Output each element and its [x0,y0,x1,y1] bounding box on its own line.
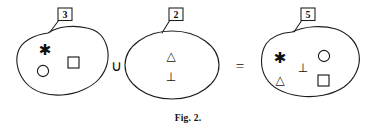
left-set-leader-line [50,20,59,32]
left-set-group: 3 ✱ [17,8,108,95]
circle-icon [318,50,329,61]
uptack-icon: ⊥ [166,70,176,84]
square-icon [68,57,79,68]
asterisk-icon: ✱ [274,49,287,67]
middle-set-label: 2 [174,9,179,20]
square-icon [318,75,329,86]
middle-set-outline [125,31,219,99]
left-set-label: 3 [63,9,68,20]
figure-caption: Fig. 2. [0,113,376,123]
triangle-icon: △ [275,73,285,87]
uptack-icon: ⊥ [298,61,308,75]
circle-icon [37,65,48,76]
right-set-label: 5 [306,9,311,20]
union-operator: ∪ [111,58,122,74]
middle-set-group: 2 △ ⊥ [125,8,219,99]
triangle-icon: △ [166,49,176,63]
figure-container: 3 ✱ ∪ 2 △ ⊥ = 5 ✱ ⊥ △ [0,0,376,134]
asterisk-icon: ✱ [39,41,52,59]
left-set-outline [17,26,108,95]
right-set-group: 5 ✱ ⊥ △ [262,8,360,97]
equals-operator: = [236,58,244,74]
